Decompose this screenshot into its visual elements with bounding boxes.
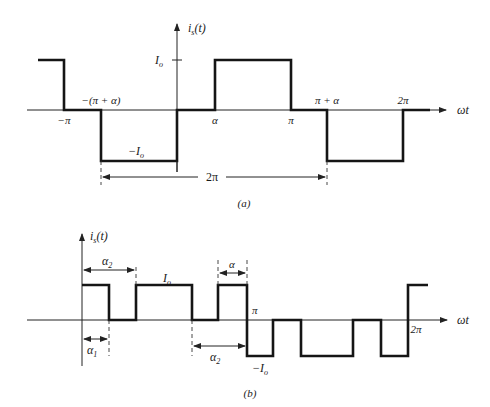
tick-neg-pi-plus-alpha: −(π + α) (82, 94, 121, 107)
neg-io-label-a: −Io (128, 144, 144, 160)
tick-pi: π (288, 114, 294, 126)
figure-canvas: 2π is(t) Io −Io −π −(π + α) α π π + α 2π… (0, 0, 490, 407)
x-axis-label-a: ωt (457, 103, 469, 117)
waveform-figure: 2π is(t) Io −Io −π −(π + α) α π π + α 2π… (0, 0, 490, 407)
period-label-a: 2π (206, 170, 218, 184)
tick-two-pi: 2π (397, 94, 409, 106)
alpha-label: α (229, 258, 235, 270)
tick-neg-pi: −π (58, 114, 71, 126)
x-axis-label-b: ωt (457, 313, 469, 327)
neg-io-label-b: −Io (252, 361, 268, 377)
alpha1-label: α1 (87, 343, 97, 359)
caption-b: (b) (244, 387, 257, 400)
tick-pi-b: π (252, 304, 258, 316)
io-label-a: Io (154, 53, 163, 69)
alpha2-bottom-label: α2 (210, 350, 220, 366)
y-axis-label-b: is(t) (90, 229, 108, 245)
tick-two-pi-b: 2π (410, 323, 422, 335)
panel-a: 2π is(t) Io −Io −π −(π + α) α π π + α 2π… (27, 21, 469, 210)
panel-b: α2 α1 α α2 is(t) Io −Io π 2π ωt (b) (27, 229, 469, 400)
alpha2-top-label: α2 (102, 254, 112, 270)
y-axis-label-a: is(t) (188, 21, 206, 37)
tick-pi-plus-alpha: π + α (315, 94, 339, 106)
tick-alpha: α (212, 114, 218, 126)
io-label-b: Io (162, 271, 171, 287)
caption-a: (a) (238, 197, 251, 210)
